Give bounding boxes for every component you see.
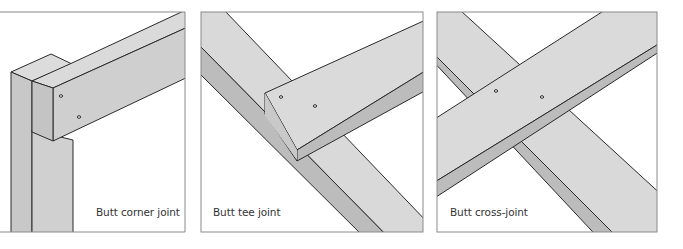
- caption-tee-joint: Butt tee joint: [213, 206, 280, 218]
- screw-hole-icon: [77, 116, 80, 119]
- screw-hole-icon: [313, 105, 316, 108]
- screw-hole-icon: [279, 96, 282, 99]
- butt-joints-figure: Butt corner joint Butt tee joint Butt cr…: [0, 0, 683, 249]
- screw-hole-icon: [540, 96, 543, 99]
- caption-corner-joint: Butt corner joint: [96, 206, 180, 218]
- screw-hole-icon: [494, 90, 497, 93]
- caption-cross-joint: Butt cross-joint: [450, 206, 528, 218]
- screw-hole-icon: [59, 95, 62, 98]
